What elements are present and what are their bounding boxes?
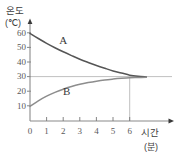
- y-tick-label-20: 20: [17, 86, 27, 96]
- x-tick-label-5: 5: [111, 126, 116, 136]
- x-tick-label-0: 0: [28, 126, 33, 136]
- x-tick-label-3: 3: [78, 126, 83, 136]
- x-axis-title: 시간: [141, 127, 159, 138]
- y-tick-label-60: 60: [17, 28, 27, 38]
- y-tick-label-40: 40: [17, 57, 27, 67]
- y-axis-title: 온도: [6, 5, 24, 16]
- x-tick-label-4: 4: [94, 126, 99, 136]
- x-tick-label-2: 2: [61, 126, 66, 136]
- series-label-b: B: [63, 85, 70, 97]
- curve-series-b: [30, 77, 146, 106]
- chart-svg: 온도 (℃) 시간 (분) 60 50 40 30 20 10: [0, 0, 182, 155]
- x-tick-label-6: 6: [127, 126, 132, 136]
- x-axis-arrow: [169, 119, 175, 124]
- temperature-time-chart: 온도 (℃) 시간 (분) 60 50 40 30 20 10: [0, 0, 182, 155]
- y-tick-label-30: 30: [17, 71, 27, 81]
- curve-series-a: [30, 33, 146, 77]
- y-axis-arrow: [28, 19, 33, 25]
- y-tick-label-10: 10: [17, 101, 27, 111]
- y-axis-unit: (℃): [5, 18, 21, 28]
- y-tick-label-50: 50: [17, 42, 27, 52]
- x-tick-label-1: 1: [44, 126, 49, 136]
- series-label-a: A: [59, 34, 67, 46]
- x-axis-unit: (분): [144, 142, 158, 152]
